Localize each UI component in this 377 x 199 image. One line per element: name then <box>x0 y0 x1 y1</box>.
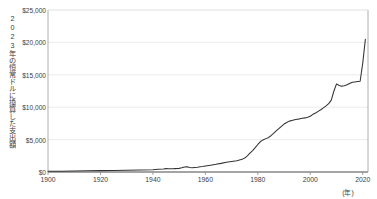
x-axis-tick-labels: 1900192019401960198020002020 <box>0 0 377 199</box>
x-axis-tick-label: 2000 <box>303 176 318 183</box>
x-axis-tick-label: 1900 <box>40 176 55 183</box>
x-axis-tick-label: 2020 <box>355 176 370 183</box>
x-axis-title: (年) <box>342 187 354 197</box>
x-axis-tick-label: 1920 <box>93 176 108 183</box>
x-axis-tick-label: 1980 <box>250 176 265 183</box>
x-axis-tick-label: 1940 <box>145 176 160 183</box>
chart-container: 2023年の恒常ドルに換算した支出額 $0$5,000$10,000$15,00… <box>0 0 377 199</box>
x-axis-tick-label: 1960 <box>198 176 213 183</box>
